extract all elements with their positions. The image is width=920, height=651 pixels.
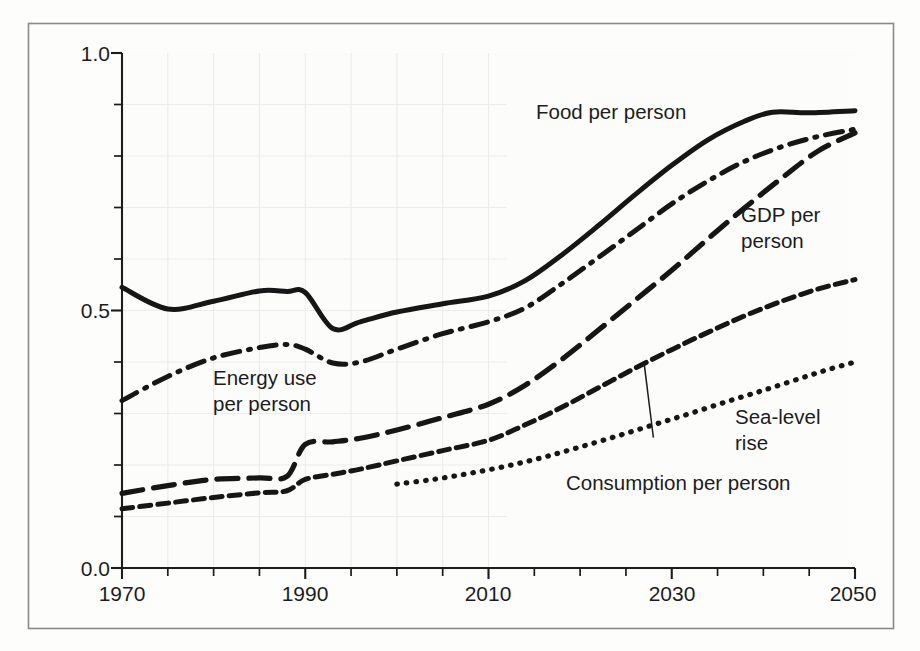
- series-label-food: Food per person: [536, 100, 686, 123]
- series-label-consumption: Consumption per person: [566, 471, 791, 494]
- x-tick-label-2030: 2030: [649, 582, 696, 605]
- x-axis-ticks: [122, 568, 855, 579]
- series-label-gdp-line1: GDP per: [741, 203, 821, 226]
- series-label-gdp-line2: person: [741, 229, 804, 252]
- series-label-sealevel-line2: rise: [735, 431, 768, 454]
- series-label-energy-line1: Energy use: [213, 366, 317, 389]
- x-tick-label-1970: 1970: [99, 582, 146, 605]
- series-label-sealevel-line1: Sea-level: [735, 405, 820, 428]
- y-tick-label-0: 0.0: [81, 557, 110, 580]
- x-tick-label-1990: 1990: [282, 582, 329, 605]
- x-tick-label-2010: 2010: [465, 582, 512, 605]
- figure-container: 1.0 0.5 0.0 1970 1990 2010 2030 2050 Foo…: [0, 0, 920, 651]
- y-axis-ticks: [111, 53, 122, 568]
- y-tick-label-1: 1.0: [81, 42, 110, 65]
- line-chart: 1.0 0.5 0.0 1970 1990 2010 2030 2050 Foo…: [0, 0, 920, 651]
- series-label-energy-line2: per person: [213, 392, 311, 415]
- x-tick-label-2050: 2050: [830, 582, 877, 605]
- y-tick-label-0.5: 0.5: [81, 299, 110, 322]
